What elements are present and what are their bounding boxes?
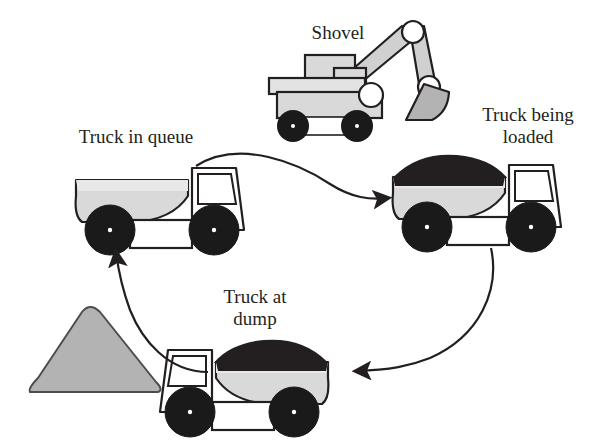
dump-pile <box>30 307 161 392</box>
haulage-cycle-graphic <box>0 0 601 440</box>
label-truck-in-queue: Truck in queue <box>48 126 224 148</box>
label-truck-at-dump: Truck at dump <box>190 286 320 330</box>
arrow-loading-to-dump <box>356 248 493 371</box>
truck-in-queue <box>76 168 244 255</box>
label-shovel: Shovel <box>278 22 398 44</box>
label-truck-being-loaded: Truck being loaded <box>462 104 594 148</box>
truck-being-loaded <box>393 156 561 252</box>
truck-at-dump <box>160 341 328 437</box>
diagram-canvas: Shovel Truck in queue Truck being loaded… <box>0 0 601 440</box>
